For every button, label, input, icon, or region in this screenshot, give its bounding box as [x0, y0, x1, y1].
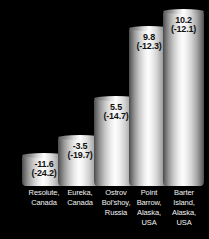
- value-secondary: (-14.7): [103, 112, 128, 121]
- bar-cap: [163, 9, 204, 14]
- bar-value-label-5: 10.2 (-12.1): [169, 15, 198, 35]
- category-line: USA: [163, 218, 205, 228]
- x-axis-labels: Resolute, Canada Eureka, Canada Ostrov B…: [0, 188, 209, 239]
- value-secondary: (-12.3): [136, 42, 161, 51]
- bar-value-label-4: 9.8 (-12.3): [134, 32, 163, 52]
- plot-area: -11.6 (-24.2) -3.5 (-19.7) 5.5 (-14.7): [0, 0, 209, 186]
- bar-group-5: 10.2 (-12.1): [163, 11, 204, 186]
- category-line: Alaska,: [163, 208, 205, 218]
- value-secondary: (-19.7): [67, 151, 92, 160]
- bar-value-label-3: 5.5 (-14.7): [101, 102, 130, 122]
- value-secondary: (-12.1): [171, 25, 196, 34]
- bar-value-label-1: -11.6 (-24.2): [29, 159, 58, 179]
- category-line: Barter: [163, 188, 205, 198]
- category-line: Island,: [163, 198, 205, 208]
- bar-value-label-2: -3.5 (-19.7): [65, 141, 94, 161]
- value-secondary: (-24.2): [31, 169, 56, 178]
- bar-barter-island: [163, 11, 204, 186]
- bar-chart: -11.6 (-24.2) -3.5 (-19.7) 5.5 (-14.7): [0, 0, 209, 239]
- category-label-barter-island: Barter Island, Alaska, USA: [163, 188, 205, 228]
